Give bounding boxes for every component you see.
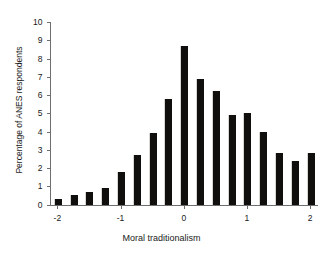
y-tick-label: 0 — [29, 201, 43, 210]
bar — [275, 153, 283, 204]
y-tick-label: 3 — [29, 146, 43, 155]
x-tick-label: 1 — [237, 214, 257, 223]
y-tick-label: 9 — [29, 36, 43, 45]
y-axis-title: Percentage of ANES respondents — [12, 8, 26, 212]
y-tick-label: 6 — [29, 91, 43, 100]
bar — [70, 195, 78, 204]
bar — [149, 133, 157, 204]
x-tick-mark — [121, 206, 122, 209]
x-tick-mark — [57, 206, 58, 209]
bar — [259, 132, 267, 205]
y-tick-label: 10 — [29, 18, 43, 27]
x-tick-label: -2 — [47, 214, 67, 223]
x-tick-mark — [247, 206, 248, 209]
x-tick-mark — [184, 206, 185, 209]
x-tick-mark — [310, 206, 311, 209]
y-tick-label: 1 — [29, 182, 43, 191]
bar — [307, 153, 315, 204]
bar — [196, 79, 204, 205]
y-tick-label: 7 — [29, 73, 43, 82]
y-tick-label: 5 — [29, 109, 43, 118]
bar — [228, 115, 236, 204]
bar — [291, 161, 299, 205]
bar — [85, 192, 93, 205]
y-tick-label: 4 — [29, 128, 43, 137]
bar — [180, 46, 188, 205]
y-tick-label: 2 — [29, 164, 43, 173]
y-tick-label: 8 — [29, 55, 43, 64]
bar — [54, 199, 62, 204]
bar — [117, 172, 125, 205]
x-tick-label: 2 — [300, 214, 320, 223]
bar — [212, 91, 220, 204]
x-tick-label: 0 — [174, 214, 194, 223]
x-axis-title: Moral traditionalism — [0, 233, 323, 244]
bar — [164, 99, 172, 205]
bar — [101, 188, 109, 204]
bar — [133, 155, 141, 204]
bar — [243, 113, 251, 204]
plot-area — [50, 22, 319, 205]
x-tick-label: -1 — [111, 214, 131, 223]
histogram-figure: Percentage of ANES respondents 012345678… — [0, 0, 323, 258]
